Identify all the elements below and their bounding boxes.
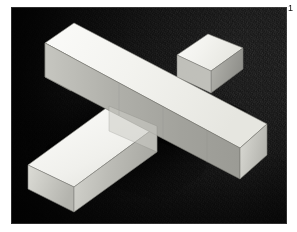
figure-number-label: 1 bbox=[288, 3, 293, 14]
figure-root: 1 bbox=[0, 0, 297, 232]
cross-object bbox=[11, 7, 287, 224]
photograph bbox=[11, 7, 287, 224]
